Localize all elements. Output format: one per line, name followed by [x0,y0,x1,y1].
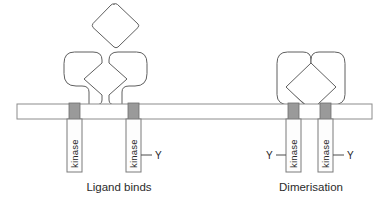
transmembrane-segment-2 [128,103,139,120]
kinase-label-3: kinase [288,139,299,168]
tyrosine-label-2: Y [155,150,162,161]
diagram-canvas: kinase kinase kinase kinase Y Y Y Ligand… [0,0,386,208]
panel-caption-dimerisation: Dimerisation [279,181,343,193]
ligand-diamond-icon [92,4,139,48]
kinase-label-2: kinase [128,139,139,168]
transmembrane-segment-3 [288,103,299,120]
kinase-label-4: kinase [320,139,331,168]
tyrosine-label-4: Y [347,150,354,161]
receptor-left-ectodomain [64,52,102,105]
receptor-kinase-diagram: kinase kinase kinase kinase Y Y Y Ligand… [0,0,386,208]
transmembrane-segment-4 [320,103,331,120]
tyrosine-label-3: Y [266,150,273,161]
transmembrane-segment-1 [69,103,80,120]
panel-caption-ligand-binds: Ligand binds [86,181,151,193]
kinase-label-1: kinase [69,139,80,168]
receptor-right-ectodomain [109,52,147,105]
